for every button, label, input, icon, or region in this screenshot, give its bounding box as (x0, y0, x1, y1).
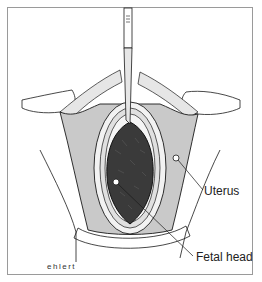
uterus-label: Uterus (204, 184, 239, 198)
left-skin-line (40, 150, 76, 262)
fetal-head-label: Fetal head (196, 250, 253, 264)
surgical-illustration (0, 0, 262, 282)
artist-signature: ehlert (47, 262, 76, 271)
